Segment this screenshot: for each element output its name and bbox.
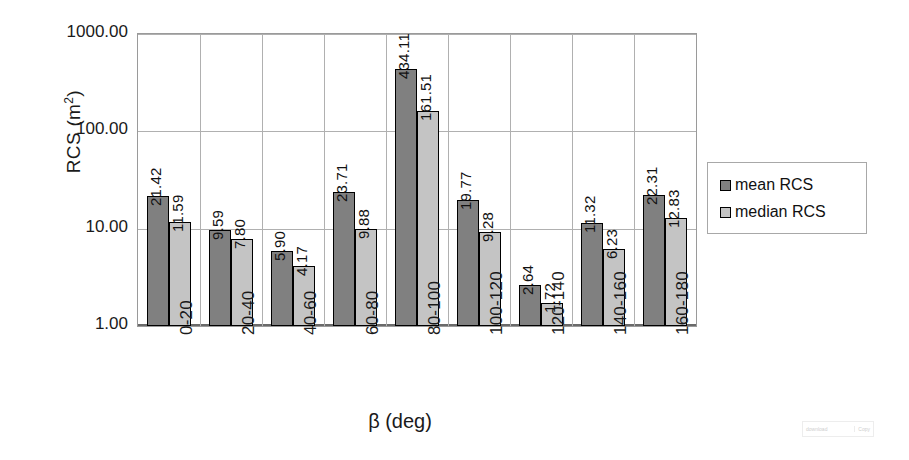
x-gridline (386, 34, 387, 326)
watermark-right-text: Copy (854, 426, 873, 432)
legend-item-median-rcs[interactable]: median RCS (720, 203, 856, 221)
x-tick-label-0-20: 0-20 (177, 300, 197, 335)
bar-value-label: 11.59 (169, 195, 186, 232)
y-tick-label: 100.00 (28, 119, 128, 139)
bar-value-label: 11.32 (581, 196, 598, 233)
x-tick-label-100-120: 100-120 (487, 271, 507, 335)
legend-label-mean-rcs: mean RCS (735, 176, 813, 194)
bar-value-label: 434.11 (395, 33, 412, 79)
x-tick-label-20-40: 20-40 (239, 291, 259, 335)
x-tick-label-120-140: 120-140 (549, 271, 569, 335)
bar-value-label: 9.28 (479, 212, 496, 242)
bar-value-label: 19.77 (457, 171, 474, 210)
bar-value-label: 12.83 (665, 190, 682, 229)
bar-mean-100-120[interactable] (457, 200, 479, 326)
legend-item-mean-rcs[interactable]: mean RCS (720, 176, 856, 194)
bar-value-label: 161.51 (417, 74, 434, 121)
chart-legend: mean RCS median RCS (707, 162, 867, 234)
x-gridline (572, 34, 573, 326)
y-gridline (138, 34, 696, 35)
y-axis-tick-labels: 1000.00100.0010.001.00 (28, 0, 128, 460)
bar-value-label: 4.17 (293, 246, 310, 276)
y-tick-label: 10.00 (28, 217, 128, 237)
bar-value-label: 2.64 (519, 265, 536, 295)
bar-mean-20-40[interactable] (209, 230, 231, 326)
bar-mean-160-180[interactable] (643, 195, 665, 326)
x-gridline (510, 34, 511, 326)
bar-value-label: 23.71 (333, 164, 350, 203)
legend-swatch-mean-rcs (720, 180, 731, 191)
x-tick-label-60-80: 60-80 (363, 291, 383, 335)
x-gridline (634, 34, 635, 326)
bar-value-label: 5.90 (271, 231, 288, 261)
y-tick-label: 1.00 (28, 314, 128, 334)
x-axis-title: β (deg) (300, 410, 500, 433)
bar-value-label: 9.88 (355, 209, 372, 239)
bar-value-label: 21.42 (147, 168, 164, 207)
x-tick-label-140-160: 140-160 (611, 271, 631, 335)
bar-value-label: 9.59 (209, 210, 226, 240)
watermark-left-text: download (803, 426, 854, 432)
x-gridline (200, 34, 201, 326)
bar-mean-140-160[interactable] (581, 223, 603, 326)
bar-value-label: 7.80 (231, 219, 248, 249)
rcs-bar-chart-figure: RCS (m2) 1000.00100.0010.001.00 β (deg) … (0, 0, 909, 460)
x-tick-label-160-180: 160-180 (673, 271, 693, 335)
x-gridline (324, 34, 325, 326)
watermark-box: download Copy (802, 421, 874, 437)
bar-value-label: 22.31 (643, 166, 660, 205)
legend-swatch-median-rcs (720, 207, 731, 218)
bar-mean-40-60[interactable] (271, 251, 293, 326)
x-tick-label-40-60: 40-60 (301, 291, 321, 335)
x-gridline (262, 34, 263, 326)
bar-mean-0-20[interactable] (147, 196, 169, 326)
y-tick-label: 1000.00 (28, 22, 128, 42)
x-gridline (448, 34, 449, 326)
x-tick-label-80-100: 80-100 (425, 281, 445, 335)
bar-value-label: 6.23 (603, 229, 620, 259)
bar-mean-60-80[interactable] (333, 192, 355, 326)
bar-mean-80-100[interactable] (395, 69, 417, 326)
legend-label-median-rcs: median RCS (735, 203, 826, 221)
